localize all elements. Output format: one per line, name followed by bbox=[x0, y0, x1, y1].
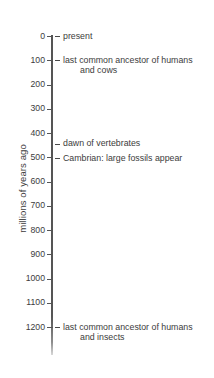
y-axis-tick-mark bbox=[47, 36, 53, 37]
y-axis-tick-mark bbox=[47, 279, 53, 280]
event-label: last common ancestor of humansand insect… bbox=[63, 322, 214, 343]
event-label: present bbox=[63, 31, 214, 42]
y-axis-tick-mark bbox=[47, 133, 53, 134]
y-axis-tick-label: 1000 bbox=[0, 273, 45, 283]
y-axis-tick-label: 700 bbox=[0, 200, 45, 210]
y-axis-tick-label: 600 bbox=[0, 176, 45, 186]
event-dash-marker bbox=[55, 327, 60, 328]
event-label-line2: and insects bbox=[63, 332, 214, 343]
event-label: dawn of vertebrates bbox=[63, 138, 214, 149]
event-label: Cambrian: large fossils appear bbox=[63, 153, 214, 164]
y-axis-tick-mark bbox=[47, 60, 53, 61]
y-axis-tick-label: 800 bbox=[0, 225, 45, 235]
event-dash-marker bbox=[55, 158, 60, 159]
y-axis-tick-label: 100 bbox=[0, 55, 45, 65]
y-axis-tick-label: 500 bbox=[0, 152, 45, 162]
y-axis-tick-mark bbox=[47, 303, 53, 304]
y-axis-tick-label: 0 bbox=[0, 31, 45, 41]
event-dash-marker bbox=[55, 36, 60, 37]
evolution-timeline-figure: millions of years ago 010020030040050060… bbox=[0, 0, 214, 378]
timeline-axis-line bbox=[51, 35, 53, 355]
y-axis-tick-label: 200 bbox=[0, 79, 45, 89]
y-axis-tick-mark bbox=[47, 157, 53, 158]
y-axis-tick-mark bbox=[47, 327, 53, 328]
y-axis-tick-mark bbox=[47, 230, 53, 231]
y-axis-tick-label: 300 bbox=[0, 103, 45, 113]
event-label-line2: and cows bbox=[63, 65, 214, 76]
y-axis-tick-label: 1200 bbox=[0, 322, 45, 332]
y-axis-tick-label: 400 bbox=[0, 128, 45, 138]
y-axis-tick-label: 900 bbox=[0, 249, 45, 259]
y-axis-tick-mark bbox=[47, 254, 53, 255]
event-dash-marker bbox=[55, 144, 60, 145]
y-axis-tick-mark bbox=[47, 206, 53, 207]
event-label: last common ancestor of humansand cows bbox=[63, 55, 214, 76]
event-dash-marker bbox=[55, 60, 60, 61]
y-axis-tick-mark bbox=[47, 182, 53, 183]
y-axis-tick-label: 1100 bbox=[0, 297, 45, 307]
y-axis-tick-mark bbox=[47, 109, 53, 110]
y-axis-tick-mark bbox=[47, 85, 53, 86]
